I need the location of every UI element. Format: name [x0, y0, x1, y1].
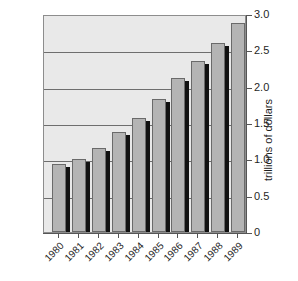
- y-tick-mark: [247, 160, 252, 161]
- x-tick-mark: [237, 234, 238, 238]
- y-tick-label: 0.5: [254, 191, 269, 202]
- bar-shadow: [166, 102, 170, 232]
- y-tick-mark: [247, 88, 252, 89]
- bar-1982[interactable]: [92, 148, 110, 232]
- bar-chart-figure: 00.51.01.52.02.53.0 19801981198219831984…: [0, 0, 298, 281]
- bar-shadow: [205, 64, 209, 232]
- bar-1988[interactable]: [211, 43, 229, 232]
- y-tick-mark: [247, 15, 252, 16]
- bar-1981[interactable]: [72, 159, 90, 232]
- bar-1984[interactable]: [132, 118, 150, 232]
- x-tick-mark: [217, 234, 218, 238]
- bar-shadow: [106, 151, 110, 232]
- bar-body: [92, 148, 106, 232]
- x-tick-mark: [138, 234, 139, 238]
- bar-1989[interactable]: [231, 23, 246, 232]
- bar-1983[interactable]: [112, 132, 130, 232]
- bar-body: [132, 118, 146, 232]
- bar-shadow: [185, 81, 189, 232]
- bar-1980[interactable]: [52, 164, 70, 232]
- y-tick-mark: [247, 124, 252, 125]
- bar-shadow: [146, 121, 150, 232]
- bar-body: [211, 43, 225, 232]
- bar-body: [152, 99, 166, 232]
- x-tick-mark: [177, 234, 178, 238]
- x-tick-mark: [118, 234, 119, 238]
- bar-shadow: [66, 167, 70, 232]
- bars-layer: [44, 16, 245, 232]
- plot-area: [43, 15, 246, 233]
- y-tick-label: 2.5: [254, 45, 269, 56]
- x-tick-mark: [78, 234, 79, 238]
- x-tick-mark: [98, 234, 99, 238]
- x-tick-mark: [58, 234, 59, 238]
- bar-body: [191, 61, 205, 232]
- bar-body: [171, 78, 185, 232]
- x-tick-mark: [197, 234, 198, 238]
- y-tick-label: 0: [254, 227, 260, 238]
- bar-body: [112, 132, 126, 232]
- bar-1985[interactable]: [152, 99, 170, 232]
- bar-body: [72, 159, 86, 232]
- bar-1987[interactable]: [191, 61, 209, 232]
- y-tick-mark: [247, 197, 252, 198]
- bar-body: [52, 164, 66, 232]
- bar-body: [231, 23, 245, 232]
- y-tick-label: 3.0: [254, 9, 269, 20]
- bar-1986[interactable]: [171, 78, 189, 232]
- bar-shadow: [86, 162, 90, 232]
- bar-shadow: [225, 46, 229, 232]
- y-tick-mark: [247, 233, 252, 234]
- x-tick-mark: [158, 234, 159, 238]
- y-axis-title: trillions of dollars: [262, 61, 274, 181]
- y-tick-mark: [247, 51, 252, 52]
- bar-shadow: [126, 135, 130, 232]
